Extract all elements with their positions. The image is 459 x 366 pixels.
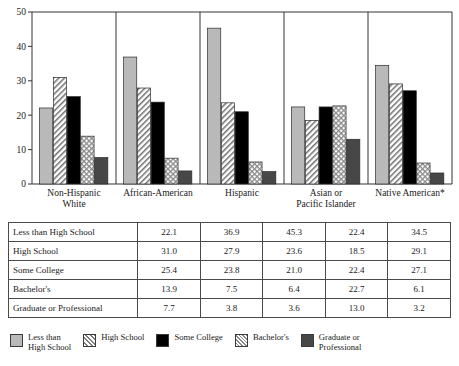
category-label-3: Asian orPacific Islander: [284, 188, 368, 210]
bar-some-college-1: [151, 102, 164, 184]
table-cell-r2-c1: 23.8: [200, 261, 263, 280]
bar-some-college-3: [319, 107, 332, 184]
legend-label: Less than High School: [28, 333, 71, 352]
legend-swatch-icon: [301, 334, 314, 347]
y-tick-label: 50: [17, 7, 27, 17]
bar-less-than-high-school-0: [40, 108, 53, 184]
bar-bachelor-s-0: [81, 136, 94, 184]
table-cell-r0-c3: 22.4: [325, 223, 388, 242]
bar-graduate-or-professional-2: [263, 172, 276, 184]
chart-canvas: 01020304050: [0, 0, 459, 214]
data-table: Less than High School22.136.945.322.434.…: [8, 222, 451, 318]
table-row-label: High School: [9, 242, 138, 261]
category-label-line: Native American*: [368, 188, 452, 199]
table-cell-r4-c3: 13.0: [325, 299, 388, 318]
table-row: Graduate or Professional7.73.83.613.03.2: [9, 299, 451, 318]
table-cell-r3-c3: 22.7: [325, 280, 388, 299]
table-cell-r2-c0: 25.4: [138, 261, 201, 280]
table-cell-r1-c1: 27.9: [200, 242, 263, 261]
bar-graduate-or-professional-1: [179, 171, 192, 184]
bar-less-than-high-school-2: [208, 28, 221, 184]
category-label-line: Pacific Islander: [284, 199, 368, 210]
bar-less-than-high-school-1: [124, 57, 137, 184]
table-cell-r3-c4: 6.1: [388, 280, 451, 299]
table-cell-r0-c0: 22.1: [138, 223, 201, 242]
table-cell-r4-c2: 3.6: [263, 299, 326, 318]
table-cell-r3-c0: 13.9: [138, 280, 201, 299]
category-label-4: Native American*: [368, 188, 452, 199]
bar-bachelor-s-2: [249, 162, 262, 184]
table-row-label: Some College: [9, 261, 138, 280]
category-label-line: Non-Hispanic: [32, 188, 116, 199]
table-cell-r1-c0: 31.0: [138, 242, 201, 261]
table-cell-r2-c2: 21.0: [263, 261, 326, 280]
table-cell-r4-c4: 3.2: [388, 299, 451, 318]
category-label-line: African-American: [116, 188, 200, 199]
y-tick-label: 0: [21, 179, 26, 189]
table-cell-r3-c2: 6.4: [263, 280, 326, 299]
legend-swatch-icon: [83, 334, 96, 347]
table-cell-r1-c3: 18.5: [325, 242, 388, 261]
table-row: Some College25.423.821.022.427.1: [9, 261, 451, 280]
bar-high-school-2: [221, 103, 234, 184]
bar-less-than-high-school-4: [376, 65, 389, 184]
legend-swatch-icon: [156, 334, 169, 347]
bar-high-school-0: [53, 77, 66, 184]
bar-bachelor-s-4: [417, 163, 430, 184]
bar-chart: 01020304050 Non-HispanicWhiteAfrican-Ame…: [0, 0, 459, 214]
table-cell-r2-c3: 22.4: [325, 261, 388, 280]
bar-high-school-1: [137, 88, 150, 184]
bar-graduate-or-professional-0: [95, 158, 108, 184]
bar-high-school-3: [305, 120, 318, 184]
bar-graduate-or-professional-4: [431, 173, 444, 184]
category-label-line: Hispanic: [200, 188, 284, 199]
bar-less-than-high-school-3: [292, 107, 305, 184]
legend-item-0: Less than High School: [10, 333, 71, 352]
bar-some-college-2: [235, 112, 248, 184]
table-row-label: Graduate or Professional: [9, 299, 138, 318]
bar-bachelor-s-3: [333, 106, 346, 184]
bar-some-college-4: [403, 91, 416, 184]
table-cell-r0-c1: 36.9: [200, 223, 263, 242]
y-tick-label: 20: [17, 111, 27, 121]
table-row-label: Less than High School: [9, 223, 138, 242]
table-cell-r4-c0: 7.7: [138, 299, 201, 318]
category-label-line: Asian or: [284, 188, 368, 199]
table-cell-r1-c4: 29.1: [388, 242, 451, 261]
legend-label: Some College: [174, 333, 222, 343]
chart-legend: Less than High SchoolHigh SchoolSome Col…: [10, 333, 455, 352]
table-row: Bachelor's13.97.56.422.76.1: [9, 280, 451, 299]
chart-page: 01020304050 Non-HispanicWhiteAfrican-Ame…: [0, 0, 459, 366]
category-label-2: Hispanic: [200, 188, 284, 199]
category-label-0: Non-HispanicWhite: [32, 188, 116, 210]
category-label-line: White: [32, 199, 116, 210]
table-cell-r3-c1: 7.5: [200, 280, 263, 299]
bar-high-school-4: [389, 84, 402, 184]
y-tick-label: 10: [17, 145, 27, 155]
y-tick-label: 40: [17, 42, 27, 52]
table-cell-r0-c4: 34.5: [388, 223, 451, 242]
table-row: Less than High School22.136.945.322.434.…: [9, 223, 451, 242]
legend-label: Bachelor's: [253, 333, 289, 343]
legend-swatch-icon: [235, 334, 248, 347]
legend-item-2: Some College: [156, 333, 222, 347]
category-label-1: African-American: [116, 188, 200, 199]
bar-bachelor-s-1: [165, 158, 178, 184]
bar-some-college-0: [67, 97, 80, 184]
legend-label: High School: [101, 333, 144, 343]
legend-item-1: High School: [83, 333, 144, 347]
table-cell-r0-c2: 45.3: [263, 223, 326, 242]
legend-label: Graduate or Professional: [319, 333, 362, 352]
legend-item-4: Graduate or Professional: [301, 333, 362, 352]
table-row: High School31.027.923.618.529.1: [9, 242, 451, 261]
legend-item-3: Bachelor's: [235, 333, 289, 347]
table-cell-r2-c4: 27.1: [388, 261, 451, 280]
table-cell-r4-c1: 3.8: [200, 299, 263, 318]
legend-swatch-icon: [10, 334, 23, 347]
y-tick-label: 30: [17, 76, 27, 86]
bar-graduate-or-professional-3: [347, 139, 360, 184]
table-cell-r1-c2: 23.6: [263, 242, 326, 261]
table-row-label: Bachelor's: [9, 280, 138, 299]
